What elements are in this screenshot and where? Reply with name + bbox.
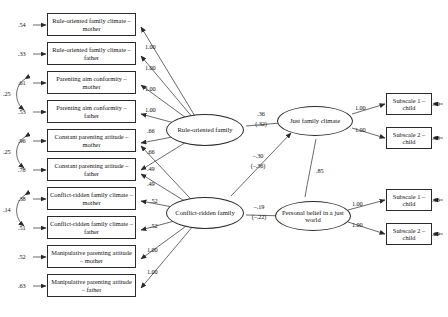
indicator-box: Constant parenting attitude – mother: [47, 129, 136, 152]
path-coefficient: –.19: [245, 203, 273, 210]
indicator-box: Manipulative parenting attitude – mother: [47, 245, 136, 268]
path-coefficient-standardized: (–.36): [240, 162, 276, 169]
subscale-box: Subscale 1 – child: [386, 189, 432, 211]
path-coefficient: –.30: [244, 152, 272, 159]
subscale-error-variance: .16: [432, 196, 440, 203]
indicator-label: Manipulative parenting attitude – father: [50, 278, 133, 292]
subscale-box: Subscale 2 – child: [386, 127, 432, 149]
path-coefficient: .36: [248, 110, 274, 117]
path-coefficient: .85: [316, 167, 324, 174]
latent-rule-oriented-family: Rule-oriented family: [166, 114, 244, 146]
loading-label: .49: [147, 165, 155, 172]
error-variance: .54: [18, 21, 26, 28]
loading-label: 1.00: [145, 64, 156, 71]
error-variance: .78: [18, 166, 26, 173]
path-coefficient-standardized: (.32): [245, 120, 277, 127]
indicator-box: Constant parenting attitude – father: [47, 158, 136, 181]
subscale-box: Subscale 1 – child: [386, 93, 432, 115]
subscale-loading-label: 1.00: [355, 104, 366, 111]
subscale-label: Subscale 2 – child: [389, 227, 429, 241]
subscale-loading-label: 1.00: [352, 221, 363, 228]
indicator-label: Parenting aim conformity – father: [50, 104, 133, 118]
error-variance: .63: [18, 282, 26, 289]
indicator-box: Parenting aim conformity – mother: [47, 71, 136, 94]
latent-personal-belief-in-a-just-world: Personal belief in a just world: [275, 201, 351, 231]
latent-label: Conflict-ridden family: [175, 209, 235, 216]
error-variance: .61: [18, 79, 26, 86]
loading-label: .52: [150, 197, 158, 204]
error-variance: .51: [18, 224, 26, 231]
indicator-label: Rule-oriented family climate – mother: [50, 17, 133, 31]
loading-label: 1.00: [145, 85, 156, 92]
loading-label: 1.00: [147, 246, 158, 253]
loading-label: 1.00: [147, 268, 158, 275]
latent-label: Just family climate: [290, 117, 340, 124]
subscale-error-variance: .29: [432, 230, 440, 237]
indicator-box: Rule-oriented family climate – mother: [47, 13, 136, 36]
latent-label: Rule-oriented family: [177, 126, 232, 133]
indicator-box: Conflict-ridden family climate – mother: [47, 187, 136, 210]
loading-label: 1.00: [145, 43, 156, 50]
loading-label: .66: [147, 148, 155, 155]
indicator-box: Parenting aim conformity – father: [47, 100, 136, 123]
loading-label: .66: [147, 127, 155, 134]
latent-just-family-climate: Just family climate: [277, 106, 353, 136]
latent-label: Personal belief in a just world: [276, 209, 350, 224]
error-variance: .33: [18, 50, 26, 57]
indicator-label: Conflict-ridden family climate – father: [50, 220, 133, 234]
indicator-box: Rule-oriented family climate – father: [47, 42, 136, 65]
indicator-label: Constant parenting attitude – father: [50, 162, 133, 176]
error-variance: .96: [18, 137, 26, 144]
path-coefficient-standardized: (–.22): [241, 213, 277, 220]
subscale-label: Subscale 1 – child: [389, 193, 429, 207]
subscale-loading-label: 1.00: [355, 126, 366, 133]
error-variance: .53: [18, 108, 26, 115]
error-variance: .52: [18, 253, 26, 260]
indicator-box: Conflict-ridden family climate – father: [47, 216, 136, 239]
indicator-label: Manipulative parenting attitude – mother: [50, 249, 133, 263]
subscale-box: Subscale 2 – child: [386, 223, 432, 245]
subscale-loading-label: 1.00: [352, 200, 363, 207]
loading-label: 1.00: [145, 106, 156, 113]
subscale-error-variance: .38: [432, 134, 440, 141]
indicator-box: Manipulative parenting attitude – father: [47, 274, 136, 297]
error-correlation-label: .25: [3, 148, 11, 155]
error-correlation-label: .25: [3, 90, 11, 97]
loading-label: .52: [150, 222, 158, 229]
error-variance: .38: [18, 195, 26, 202]
error-correlation-label: .14: [3, 206, 11, 213]
indicator-label: Conflict-ridden family climate – mother: [50, 191, 133, 205]
loading-label: .49: [147, 180, 155, 187]
indicator-label: Constant parenting attitude – mother: [50, 133, 133, 147]
indicator-label: Rule-oriented family climate – father: [50, 46, 133, 60]
latent-conflict-ridden-family: Conflict-ridden family: [166, 197, 244, 229]
subscale-label: Subscale 2 – child: [389, 131, 429, 145]
subscale-label: Subscale 1 – child: [389, 97, 429, 111]
sem-diagram: Rule-oriented family climate – mother Ru…: [0, 0, 448, 317]
subscale-error-variance: .30: [432, 100, 440, 107]
indicator-label: Parenting aim conformity – mother: [50, 75, 133, 89]
